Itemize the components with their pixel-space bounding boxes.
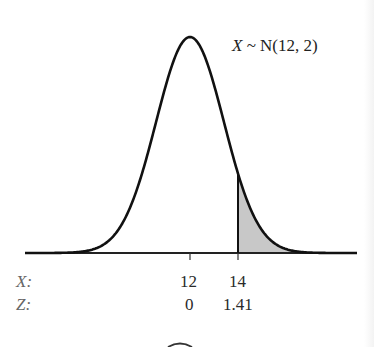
page-edge-shadow xyxy=(364,0,374,347)
partial-shape-bottom xyxy=(168,344,192,347)
tick-label-z-141: 1.41 xyxy=(223,295,253,315)
distribution-params: ~ N(12, 2) xyxy=(247,36,318,55)
tick-label-z-0: 0 xyxy=(185,295,194,315)
distribution-variable: X xyxy=(232,36,242,55)
tick-label-x-12: 12 xyxy=(180,272,197,292)
x-row-label: X: xyxy=(16,272,32,292)
normal-distribution-figure: X ~ N(12, 2) X: Z: 12 14 0 1.41 xyxy=(0,0,374,347)
shaded-right-tail xyxy=(238,174,357,253)
tick-label-x-14: 14 xyxy=(229,272,246,292)
z-row-label: Z: xyxy=(16,295,31,315)
distribution-label: X ~ N(12, 2) xyxy=(232,36,318,56)
bell-curve xyxy=(25,37,357,253)
